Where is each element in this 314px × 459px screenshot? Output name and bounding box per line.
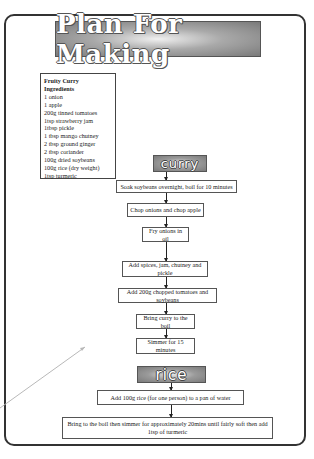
pointer-line-icon: [0, 0, 314, 459]
